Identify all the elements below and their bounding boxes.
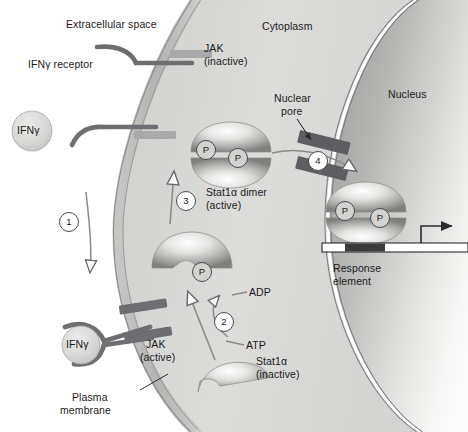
receptor-hook-top (97, 47, 136, 63)
label-ifng-bound: IFNγ (66, 338, 89, 351)
label-response-element-line1: Response (333, 262, 381, 275)
step-1-diffusion-arrow (86, 192, 91, 272)
step-1-number: 1 (64, 216, 74, 228)
jak-stat-pathway-figure: Extracellular space Cytoplasm Nucleus IF… (0, 0, 468, 432)
label-atp: ATP (246, 339, 266, 352)
label-plasma-membrane-line1: Plasma (72, 391, 108, 404)
label-stat1a-inactive-line1: Stat1α (256, 355, 287, 368)
response-element-segment (345, 244, 385, 252)
dna-bar (322, 243, 468, 252)
label-extracellular-space: Extracellular space (66, 18, 157, 31)
label-jak-inactive-line2: (inactive) (204, 55, 248, 68)
label-stat1a-dimer-line1: Stat1α dimer (206, 186, 267, 199)
step-3-number: 3 (181, 195, 191, 207)
label-stat1a-dimer-line2: (active) (206, 199, 241, 212)
label-nuclear-pore-line2: pore (281, 105, 302, 118)
label-plasma-membrane-line2: membrane (60, 404, 111, 417)
label-stat1a-inactive-line2: (inactive) (256, 368, 300, 381)
label-response-element-line2: element (333, 275, 371, 288)
phosphate-label-dimer-left: P (201, 144, 211, 156)
label-nuclear-pore-line1: Nuclear (274, 92, 311, 105)
step-4-number: 4 (313, 155, 323, 167)
label-cytoplasm: Cytoplasm (262, 20, 313, 33)
step-2-number: 2 (219, 316, 229, 328)
label-jak-active-line2: (active) (140, 351, 175, 364)
jak-inactive-bar-middle (134, 131, 176, 139)
phosphate-label-nuclear-right: P (375, 212, 385, 224)
label-jak-inactive-line1: JAK (204, 42, 224, 55)
label-nucleus: Nucleus (388, 88, 427, 101)
label-adp: ADP (249, 286, 271, 299)
label-jak-active-line1: JAK (146, 338, 166, 351)
phosphate-label-dimer-right: P (233, 152, 243, 164)
receptor-hook-middle (72, 127, 104, 145)
phosphate-label-monomer: P (197, 266, 207, 278)
phosphate-label-nuclear-left: P (340, 205, 350, 217)
step-1-arrow (86, 192, 91, 272)
label-ifng-receptor: IFNγ receptor (28, 58, 93, 71)
label-ifng-free: IFNγ (17, 124, 40, 137)
